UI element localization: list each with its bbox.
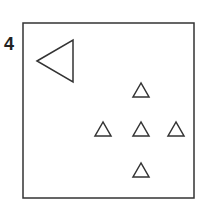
small-triangle-bottom-icon bbox=[133, 163, 149, 177]
small-triangle-top-icon bbox=[133, 83, 149, 97]
figure-frame bbox=[23, 23, 194, 198]
large-left-triangle-icon bbox=[37, 40, 73, 82]
small-triangle-middle-left-icon bbox=[95, 122, 111, 136]
small-triangles-group bbox=[95, 83, 184, 177]
small-triangle-middle-right-icon bbox=[168, 122, 184, 136]
figure-canvas bbox=[0, 0, 200, 201]
small-triangle-middle-center-icon bbox=[133, 122, 149, 136]
